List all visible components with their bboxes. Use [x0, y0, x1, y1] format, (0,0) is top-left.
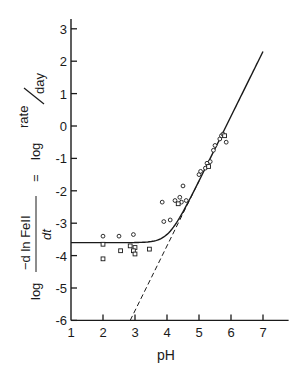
data-point-circle: [184, 199, 188, 203]
data-point-circle: [132, 233, 136, 237]
data-point-square: [148, 247, 152, 251]
data-point-circle: [101, 234, 105, 238]
y-tick-label: 2: [60, 54, 67, 69]
data-point-circle: [224, 140, 228, 144]
x-axis-title: pH: [157, 347, 175, 363]
x-tick-label: 7: [259, 325, 266, 340]
data-point-circle: [117, 234, 121, 238]
data-point-square: [128, 244, 132, 248]
data-point-square: [101, 257, 105, 261]
y-tick-label: -6: [55, 313, 67, 328]
data-point-circle: [160, 200, 164, 204]
data-point-square: [133, 252, 137, 256]
fitted-curve: [71, 52, 263, 243]
chart: 3210-1-2-3-4-5-6 1234567 pH log −d ln Fe…: [0, 0, 305, 386]
y-axis: 3210-1-2-3-4-5-6: [55, 19, 77, 328]
data-point-circle: [213, 144, 217, 148]
data-point-square: [207, 165, 211, 169]
fitted-curve-path: [71, 52, 263, 243]
y-tick-label: 0: [60, 119, 67, 134]
data-point-square: [223, 134, 227, 138]
y-title-numerator: −d ln FeII: [18, 215, 33, 270]
x-tick-label: 4: [163, 325, 170, 340]
y-title-log: log: [28, 283, 43, 300]
data-point-circle: [181, 184, 185, 188]
y-title-denominator: dt: [39, 228, 54, 240]
y-tick-label: 3: [60, 22, 67, 37]
data-point-circle: [208, 160, 212, 164]
data-point-square: [119, 249, 123, 253]
y-tick-label: -5: [55, 281, 67, 296]
y-title-day: day: [32, 73, 47, 94]
data-point-square: [101, 242, 105, 246]
y-tick-label: -4: [55, 249, 67, 264]
x-tick-label: 2: [99, 325, 106, 340]
data-points: [101, 132, 228, 261]
x-tick-label: 3: [131, 325, 138, 340]
x-tick-label: 6: [227, 325, 234, 340]
y-title-equals: =: [28, 174, 43, 182]
x-tick-label: 5: [195, 325, 202, 340]
y-tick-label: -1: [55, 151, 67, 166]
data-point-circle: [178, 195, 182, 199]
x-tick-label: 1: [67, 325, 74, 340]
y-tick-label: -3: [55, 216, 67, 231]
data-point-circle: [212, 148, 216, 152]
data-point-circle: [162, 220, 166, 224]
data-point-circle: [168, 218, 172, 222]
y-title-rate: rate: [16, 106, 31, 128]
y-title-log2: log: [28, 143, 43, 160]
y-tick-label: -2: [55, 184, 67, 199]
y-tick-label: 1: [60, 87, 67, 102]
x-axis: 1234567: [67, 314, 288, 340]
data-point-circle: [199, 169, 203, 173]
y-axis-title: log −d ln FeII dt = log rate day: [16, 73, 54, 300]
data-point-square: [176, 202, 180, 206]
